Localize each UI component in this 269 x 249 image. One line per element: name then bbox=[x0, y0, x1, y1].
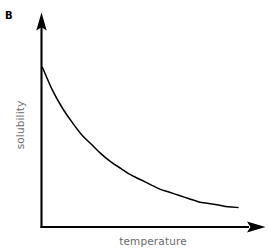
figure-panel-b: B solubility temperature bbox=[0, 0, 269, 249]
panel-letter-label: B bbox=[5, 10, 13, 21]
solubility-temperature-chart: B solubility temperature bbox=[0, 0, 269, 249]
x-axis-label: temperature bbox=[119, 235, 187, 247]
chart-background bbox=[0, 0, 269, 249]
y-axis-label: solubility bbox=[14, 101, 26, 150]
